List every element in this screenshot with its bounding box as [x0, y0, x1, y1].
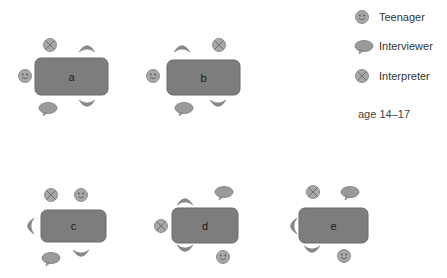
- empty-chair-icon: [304, 246, 320, 253]
- empty-chair-icon: [174, 46, 190, 53]
- table-label-e: e: [330, 220, 336, 232]
- empty-chair-icon: [79, 100, 95, 107]
- crossed-circle-icon: [356, 70, 369, 83]
- smiley-face-icon: [356, 11, 369, 24]
- empty-chair-icon: [177, 199, 193, 206]
- table-label-b: b: [200, 72, 206, 84]
- smiley-face-icon: [217, 251, 230, 264]
- speech-bubble-icon: [39, 103, 57, 117]
- table-label-a: a: [68, 71, 75, 83]
- crossed-circle-icon: [353, 67, 371, 85]
- seating-diagram: abcde Teenager Interviewer Interpreter a…: [0, 0, 447, 278]
- crossed-circle-icon: [155, 220, 168, 233]
- crossed-circle-icon: [45, 189, 58, 202]
- speech-bubble-icon: [42, 253, 60, 267]
- table-label-d: d: [202, 220, 208, 232]
- legend-item-teenager: Teenager: [353, 8, 447, 28]
- speech-bubble-icon: [215, 187, 233, 201]
- empty-chair-icon: [291, 218, 298, 234]
- smiley-face-icon: [338, 250, 351, 263]
- legend-label-teenager: Teenager: [379, 11, 425, 23]
- legend-item-interpreter: Interpreter: [353, 67, 447, 87]
- legend-label-interpreter: Interpreter: [379, 70, 430, 82]
- table-group-a: a: [19, 39, 109, 117]
- crossed-circle-icon: [213, 39, 226, 52]
- crossed-circle-icon: [44, 39, 57, 52]
- speech-bubble-icon: [341, 187, 359, 201]
- speech-bubble-icon: [353, 37, 375, 55]
- empty-chair-icon: [79, 46, 95, 53]
- table-group-c: c: [28, 189, 107, 267]
- speech-bubble-icon: [355, 41, 373, 55]
- table-group-d: d: [155, 187, 239, 264]
- smiley-face-icon: [147, 70, 160, 83]
- table-group-b: b: [147, 39, 241, 117]
- age-range-note: age 14–17: [358, 108, 410, 120]
- legend-item-interviewer: Interviewer: [353, 37, 447, 57]
- speech-bubble-icon: [175, 103, 193, 117]
- smiley-face-icon: [75, 189, 88, 202]
- legend-label-interviewer: Interviewer: [379, 40, 433, 52]
- smiley-face-icon: [353, 8, 371, 26]
- table-label-c: c: [71, 220, 77, 232]
- smiley-face-icon: [19, 70, 32, 83]
- crossed-circle-icon: [307, 186, 320, 199]
- empty-chair-icon: [210, 100, 226, 107]
- table-group-e: e: [291, 186, 369, 263]
- empty-chair-icon: [73, 250, 89, 257]
- empty-chair-icon: [177, 245, 193, 252]
- empty-chair-icon: [28, 218, 35, 234]
